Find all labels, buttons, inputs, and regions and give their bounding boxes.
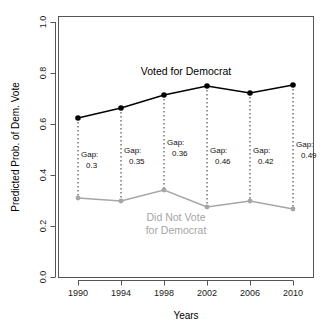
x-tick-label-1994: 1994 [111, 288, 131, 298]
gap-label-1998: Gap: [167, 138, 184, 147]
y-tick-label-0.6: 0.6 [38, 118, 48, 131]
data-point-did-not-vote-2002 [205, 205, 210, 210]
x-tick-label-2010: 2010 [283, 288, 303, 298]
gap-value-2010: 0.49 [301, 151, 317, 160]
x-tick-label-2006: 2006 [240, 288, 260, 298]
gap-value-2006: 0.42 [258, 157, 274, 166]
y-tick-label-0.2: 0.2 [38, 220, 48, 233]
gap-value-1994: 0.35 [129, 157, 145, 166]
series-label-did-not-vote-line2: for Democrat [146, 224, 207, 236]
y-axis-title: Predicted Prob. of Dem. Vote [10, 82, 21, 212]
data-point-did-not-vote-1998 [162, 188, 167, 193]
gap-value-1998: 0.36 [172, 149, 188, 158]
data-point-voted-1990 [75, 115, 81, 121]
x-axis-title: Years [173, 310, 198, 321]
data-point-voted-2002 [204, 83, 210, 89]
gap-label-1990: Gap: [81, 150, 98, 159]
data-point-did-not-vote-2006 [248, 199, 253, 204]
data-point-voted-2010 [290, 82, 296, 88]
series-label-voted-for-democrat: Voted for Democrat [141, 65, 232, 77]
gap-label-1994: Gap: [124, 146, 141, 155]
gap-value-1990: 0.3 [86, 161, 98, 170]
chart-container: 1.0 0.8 0.6 0.4 0.2 0.0 Predicted Prob. … [0, 0, 330, 331]
data-point-did-not-vote-2010 [291, 207, 296, 212]
data-point-voted-1998 [161, 92, 167, 98]
data-point-voted-1994 [118, 105, 124, 111]
series-label-did-not-vote-for-democrat: Did Not Vote for Democrat [146, 211, 207, 236]
x-tick-label-2002: 2002 [197, 288, 217, 298]
y-tick-label-0.0: 0.0 [38, 271, 48, 284]
gap-label-2006: Gap: [253, 146, 270, 155]
x-tick-label-1990: 1990 [68, 288, 88, 298]
y-tick-label-0.8: 0.8 [38, 67, 48, 80]
data-point-voted-2006 [247, 90, 253, 96]
gap-value-2002: 0.46 [215, 157, 231, 166]
x-tick-label-1998: 1998 [154, 288, 174, 298]
line-chart-plot: 1.0 0.8 0.6 0.4 0.2 0.0 Predicted Prob. … [0, 0, 330, 331]
gap-label-2010: Gap: [296, 140, 313, 149]
series-label-did-not-vote-line1: Did Not Vote [147, 211, 206, 223]
data-point-did-not-vote-1990 [76, 196, 81, 201]
gap-label-2002: Gap: [210, 146, 227, 155]
data-point-did-not-vote-1994 [119, 199, 124, 204]
y-tick-label-0.4: 0.4 [38, 169, 48, 182]
y-tick-label-1.0: 1.0 [38, 16, 48, 29]
